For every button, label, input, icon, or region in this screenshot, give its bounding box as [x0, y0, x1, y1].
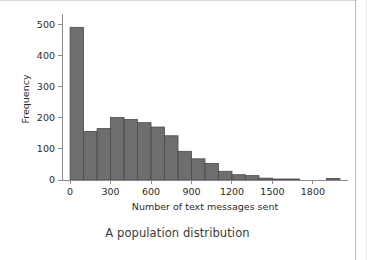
y-axis-tick-label: 200 [37, 112, 55, 123]
y-axis-tick-label: 500 [37, 19, 55, 30]
x-axis-tick-label: 900 [182, 186, 200, 197]
histogram-bar [218, 171, 231, 180]
x-axis-tick-label: 600 [142, 186, 160, 197]
figure-container: 01002003004005000300600900120015001800Nu… [0, 0, 367, 260]
histogram-bar [245, 176, 258, 180]
histogram-bar [151, 127, 164, 180]
histogram-bar [138, 123, 151, 180]
y-axis-tick-label: 400 [37, 50, 55, 61]
y-axis-title: Frequency [20, 74, 31, 123]
x-axis-tick-label: 1800 [301, 186, 325, 197]
y-axis-tick-label: 0 [49, 174, 55, 185]
y-axis-tick-label: 100 [37, 143, 55, 154]
histogram-bar [192, 159, 205, 180]
histogram-bar [178, 151, 191, 180]
figure-right-border [355, 0, 356, 260]
x-axis-tick-label: 300 [101, 186, 119, 197]
x-axis-tick-label: 1200 [220, 186, 244, 197]
histogram-bar [70, 27, 83, 180]
x-axis-title: Number of text messages sent [132, 201, 279, 212]
histogram-chart: 01002003004005000300600900120015001800Nu… [0, 0, 355, 222]
histogram-bar [111, 117, 124, 180]
y-axis-tick-label: 300 [37, 81, 55, 92]
histogram-bar [205, 163, 218, 180]
histogram-bar [124, 120, 137, 180]
histogram-bar [165, 136, 178, 180]
figure-caption: A population distribution [0, 226, 355, 240]
histogram-bar [84, 131, 97, 180]
histogram-bar [97, 129, 110, 180]
plot-area: 01002003004005000300600900120015001800Nu… [0, 0, 355, 222]
x-axis-tick-label: 1500 [260, 186, 284, 197]
x-axis-tick-label: 0 [67, 186, 73, 197]
histogram-bar [232, 175, 245, 180]
